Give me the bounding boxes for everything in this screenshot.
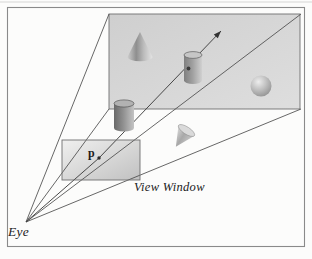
foreground-cylinder-top [114,100,134,107]
tilted-cone [168,122,197,152]
foreground-cylinder [114,100,134,132]
view-window-label: View Window [134,180,205,195]
scene-cylinder-body [184,55,202,84]
foreground-cylinder-body [114,104,134,132]
scene-sphere [251,76,272,97]
diagram-canvas [0,0,312,259]
scene-cylinder-top [184,52,202,59]
scene-rectangle [109,14,300,109]
scene-cylinder [184,52,202,84]
point-p-marker [97,156,100,159]
eye-label: Eye [8,224,29,240]
point-p-label: p [88,146,95,161]
ray-hit-point [187,67,191,71]
view-window-rectangle [62,140,140,180]
ray-tracing-figure: Eye View Window p [0,0,312,259]
